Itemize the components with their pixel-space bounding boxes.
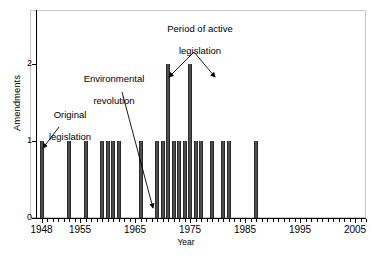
bar	[40, 141, 44, 218]
x-axis-minor-tick	[196, 219, 197, 222]
x-axis-minor-tick	[119, 219, 120, 222]
bar	[67, 141, 71, 218]
bar	[111, 141, 115, 218]
x-axis-tick-label: 1975	[170, 224, 210, 235]
x-axis-major-tick	[190, 219, 191, 223]
annotation-environmental-line1: Environmental	[84, 73, 145, 84]
x-axis-minor-tick	[284, 219, 285, 222]
x-axis-minor-tick	[168, 219, 169, 222]
x-axis-minor-tick	[251, 219, 252, 222]
bar	[183, 141, 187, 218]
bar	[254, 141, 258, 218]
x-axis-minor-tick	[47, 219, 48, 222]
x-axis-minor-tick	[69, 219, 70, 222]
y-axis-tick	[32, 141, 36, 142]
y-axis-line	[36, 10, 37, 219]
x-axis-tick-label: 2005	[335, 224, 372, 235]
x-axis-major-tick	[300, 219, 301, 223]
x-axis-minor-tick	[152, 219, 153, 222]
bar	[161, 141, 165, 218]
x-axis-tick-label: 1965	[115, 224, 155, 235]
x-axis-minor-tick	[306, 219, 307, 222]
x-axis-tick-label: 1955	[60, 224, 100, 235]
annotation-environmental-revolution: Environmental revolution	[62, 62, 166, 106]
x-axis-minor-tick	[273, 219, 274, 222]
x-axis-minor-tick	[229, 219, 230, 222]
bar	[221, 141, 225, 218]
x-axis-minor-tick	[234, 219, 235, 222]
y-axis-tick-label: 0	[18, 213, 32, 222]
chart-container: Amendments 210 1948195519651975198519952…	[0, 0, 372, 269]
x-axis-minor-tick	[311, 219, 312, 222]
x-axis-tick-label: 1985	[225, 224, 265, 235]
bar	[166, 64, 170, 218]
x-axis-tick-label: 1948	[22, 224, 62, 235]
x-axis-major-tick	[42, 219, 43, 223]
y-axis-tick-label: 1	[18, 136, 32, 145]
bar	[100, 141, 104, 218]
x-axis-minor-tick	[75, 219, 76, 222]
x-axis-major-tick	[135, 219, 136, 223]
x-axis-minor-tick	[130, 219, 131, 222]
x-axis-minor-tick	[141, 219, 142, 222]
annotation-period-active-legislation: Period of active legislation	[142, 12, 258, 56]
x-axis-major-tick	[245, 219, 246, 223]
x-axis-minor-tick	[322, 219, 323, 222]
bar	[139, 141, 143, 218]
bar	[199, 141, 203, 218]
x-axis-major-tick	[355, 219, 356, 223]
x-axis-minor-tick	[58, 219, 59, 222]
bar	[172, 141, 176, 218]
x-axis-minor-tick	[174, 219, 175, 222]
y-axis-tick-label: 2	[18, 59, 32, 68]
bar	[117, 141, 121, 218]
x-axis-minor-tick	[240, 219, 241, 222]
x-axis-tick-label: 1995	[280, 224, 320, 235]
x-axis-minor-tick	[218, 219, 219, 222]
x-axis-minor-tick	[179, 219, 180, 222]
x-axis-minor-tick	[267, 219, 268, 222]
x-axis-minor-tick	[317, 219, 318, 222]
x-axis-major-tick	[80, 219, 81, 223]
x-axis-minor-tick	[91, 219, 92, 222]
x-axis-minor-tick	[124, 219, 125, 222]
annotation-original-line2: legislation	[49, 131, 91, 142]
x-axis-minor-tick	[366, 219, 367, 222]
bar	[194, 141, 198, 218]
x-axis-minor-tick	[113, 219, 114, 222]
x-axis-minor-tick	[295, 219, 296, 222]
x-axis-minor-tick	[53, 219, 54, 222]
x-axis-minor-tick	[344, 219, 345, 222]
x-axis-minor-tick	[328, 219, 329, 222]
x-axis-minor-tick	[278, 219, 279, 222]
bar	[106, 141, 110, 218]
x-axis-minor-tick	[333, 219, 334, 222]
x-axis-minor-tick	[339, 219, 340, 222]
x-axis-minor-tick	[97, 219, 98, 222]
x-axis-minor-tick	[86, 219, 87, 222]
y-axis-tick	[32, 64, 36, 65]
bar	[188, 64, 192, 218]
bar	[84, 141, 88, 218]
x-axis-minor-tick	[157, 219, 158, 222]
x-axis-minor-tick	[201, 219, 202, 222]
x-axis-minor-tick	[207, 219, 208, 222]
x-axis-minor-tick	[350, 219, 351, 222]
bar	[227, 141, 231, 218]
x-axis-title: Year	[0, 238, 372, 247]
annotation-period-line2: legislation	[179, 45, 221, 56]
x-axis-minor-tick	[64, 219, 65, 222]
x-axis-minor-tick	[361, 219, 362, 222]
x-axis-minor-tick	[146, 219, 147, 222]
x-axis-minor-tick	[185, 219, 186, 222]
annotation-period-line1: Period of active	[167, 23, 232, 34]
x-axis-minor-tick	[256, 219, 257, 222]
x-axis-minor-tick	[108, 219, 109, 222]
x-axis-minor-tick	[262, 219, 263, 222]
bar	[210, 141, 214, 218]
x-axis-minor-tick	[102, 219, 103, 222]
bar	[177, 141, 181, 218]
annotation-original-line1: Original	[54, 109, 87, 120]
annotation-environmental-line2: revolution	[93, 95, 134, 106]
x-axis-minor-tick	[223, 219, 224, 222]
